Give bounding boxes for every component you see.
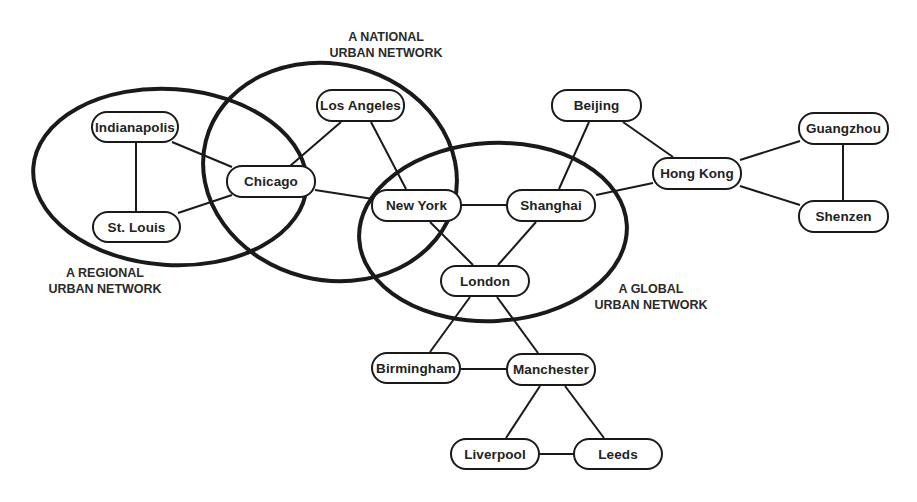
node-manchester: Manchester — [506, 353, 596, 386]
edge-stlouis-chicago — [178, 195, 232, 213]
national-label-line1: A NATIONAL — [316, 29, 456, 45]
node-shenzen: Shenzen — [798, 200, 889, 233]
regional-network-label: A REGIONAL URBAN NETWORK — [34, 265, 176, 297]
global-network-label: A GLOBAL URBAN NETWORK — [581, 281, 721, 313]
node-liverpool: Liverpool — [450, 438, 540, 470]
node-hong-kong: Hong Kong — [652, 157, 742, 190]
edge-shanghai-london — [498, 222, 536, 265]
edge-london-birmingham — [430, 297, 470, 352]
node-leeds: Leeds — [573, 438, 663, 470]
regional-label-line2: URBAN NETWORK — [34, 281, 176, 297]
global-label-line1: A GLOBAL — [581, 281, 721, 297]
edge-chicago-newyork — [315, 190, 373, 199]
edge-newyork-london — [430, 222, 473, 265]
edge-manchester-liverpool — [506, 386, 540, 438]
edge-shanghai-hongkong — [596, 183, 653, 195]
regional-label-line1: A REGIONAL — [34, 265, 176, 281]
node-st-louis: St. Louis — [92, 211, 181, 243]
node-indianapolis: Indianapolis — [91, 111, 179, 143]
global-label-line2: URBAN NETWORK — [581, 297, 721, 313]
node-birmingham: Birmingham — [371, 352, 461, 384]
national-network-ellipse — [180, 36, 481, 308]
national-label-line2: URBAN NETWORK — [316, 45, 456, 61]
node-shanghai: Shanghai — [506, 189, 596, 222]
network-diagram — [0, 0, 917, 502]
edge-hongkong-shenzen — [740, 186, 800, 205]
node-beijing: Beijing — [551, 89, 642, 122]
national-network-label: A NATIONAL URBAN NETWORK — [316, 29, 456, 61]
edge-london-manchester — [497, 297, 538, 353]
node-chicago: Chicago — [226, 165, 316, 198]
edge-chicago-losangeles — [290, 122, 341, 166]
edge-manchester-leeds — [565, 386, 604, 438]
node-london: London — [440, 265, 530, 297]
node-los-angeles: Los Angeles — [316, 89, 405, 122]
node-guangzhou: Guangzhou — [798, 112, 889, 145]
node-new-york: New York — [371, 189, 462, 222]
edge-hongkong-guangzhou — [740, 141, 800, 160]
edge-beijing-hongkong — [623, 122, 673, 157]
